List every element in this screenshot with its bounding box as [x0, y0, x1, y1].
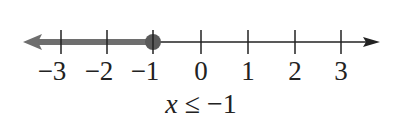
number-line-diagram: −3 −2 −1 0 1 2 3 x ≤ −1 — [0, 0, 395, 125]
tick-label: −1 — [131, 56, 160, 86]
inequality-caption: x ≤ −1 — [164, 88, 237, 119]
inequality-variable: x — [164, 88, 178, 119]
tick-label: 1 — [241, 56, 255, 86]
tick-label: 2 — [288, 56, 302, 86]
inequality-relation: ≤ −1 — [178, 88, 237, 119]
tick-labels: −3 −2 −1 0 1 2 3 — [38, 56, 348, 86]
tick-label: 3 — [334, 56, 348, 86]
tick-label: −2 — [85, 56, 114, 86]
tick-label: −3 — [38, 56, 67, 86]
tick-label: 0 — [194, 56, 208, 86]
